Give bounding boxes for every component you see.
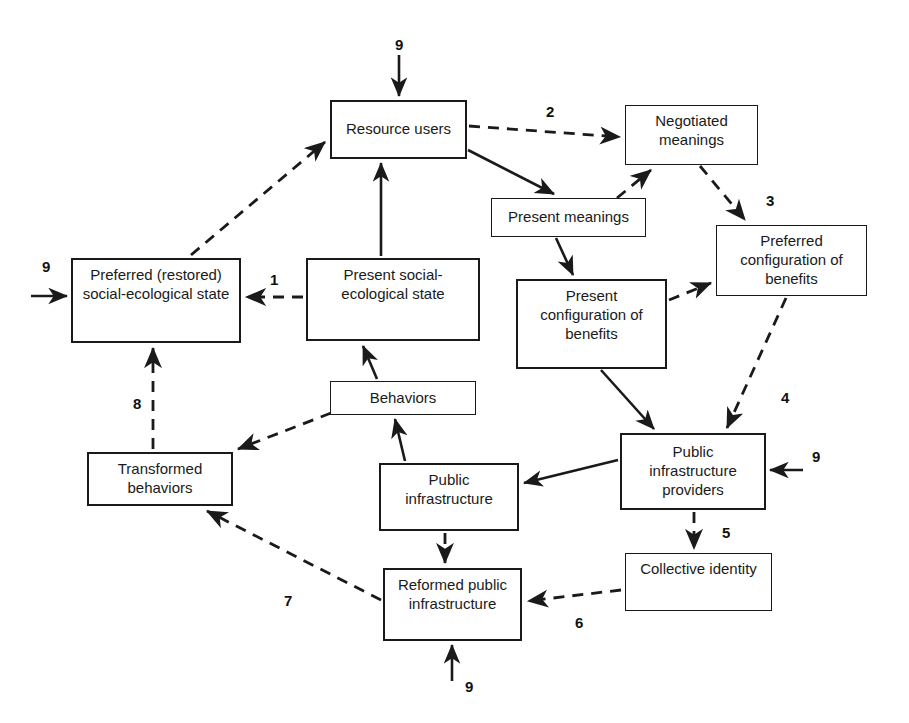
node-label: Present meanings <box>496 208 641 227</box>
edge-label-5: 5 <box>722 524 730 541</box>
node-label: Present configuration of benefits <box>522 287 661 343</box>
node-preferred-restored-state[interactable]: Preferred (restored) social-ecological s… <box>71 258 241 343</box>
node-present-configuration-of-benefits[interactable]: Present configuration of benefits <box>516 279 667 369</box>
edge-label-3: 3 <box>766 192 774 209</box>
node-label: Reformed public infrastructure <box>389 576 516 614</box>
edge-negotiated-meanings-to-preferred-config <box>700 166 745 220</box>
edge-present-meanings-to-present-config <box>556 238 573 275</box>
node-label: Preferred configuration of benefits <box>721 232 862 288</box>
node-preferred-configuration-of-benefits[interactable]: Preferred configuration of benefits <box>716 225 867 296</box>
edge-reformed-to-transformed-behaviors <box>207 511 381 600</box>
edge-public-infrastructure-to-behaviors <box>395 419 405 461</box>
node-label: Present social- ecological state <box>312 266 474 304</box>
edge-present-meanings-to-negotiated-meanings <box>617 170 651 198</box>
edge-label-7: 7 <box>284 592 292 609</box>
node-label: Negotiated meanings <box>630 112 753 150</box>
node-behaviors[interactable]: Behaviors <box>330 381 476 415</box>
edge-label-1: 1 <box>270 271 278 288</box>
node-negotiated-meanings[interactable]: Negotiated meanings <box>625 105 758 165</box>
node-transformed-behaviors[interactable]: Transformed behaviors <box>87 452 233 506</box>
edge-label-2: 2 <box>546 103 554 120</box>
node-present-meanings[interactable]: Present meanings <box>491 198 646 237</box>
edge-label-9-resource-users: 9 <box>395 36 403 53</box>
edge-present-config-to-preferred-config <box>669 283 711 300</box>
node-label: Preferred (restored) social-ecological s… <box>77 266 235 304</box>
node-label: Transformed behaviors <box>93 460 227 498</box>
node-label: Public infrastructure <box>385 471 513 509</box>
node-reformed-public-infrastructure[interactable]: Reformed public infrastructure <box>383 568 522 641</box>
edge-label-8: 8 <box>133 395 141 412</box>
edge-preferred-config-to-providers <box>727 298 786 428</box>
edge-label-6: 6 <box>575 614 583 631</box>
edge-label-9-reformed: 9 <box>465 678 473 695</box>
edge-collective-identity-to-reformed <box>528 590 621 601</box>
edge-behaviors-to-transformed-behaviors <box>238 413 331 449</box>
edge-resource-users-to-present-meanings <box>468 150 554 194</box>
edge-label-9-providers: 9 <box>812 448 820 465</box>
edge-present-config-to-providers <box>601 370 654 429</box>
node-label: Behaviors <box>335 389 471 408</box>
node-label: Resource users <box>336 120 461 139</box>
edge-resource-users-to-negotiated-meanings <box>469 126 620 137</box>
edge-label-9-preferred-state: 9 <box>42 258 50 275</box>
edge-preferred-state-to-resource-users <box>191 142 325 255</box>
diagram-canvas: Resource users Negotiated meanings Prese… <box>0 0 909 723</box>
edge-behaviors-to-present-state <box>363 346 377 379</box>
node-label: Public infrastructure providers <box>626 443 760 499</box>
node-collective-identity[interactable]: Collective identity <box>625 553 772 611</box>
node-public-infrastructure[interactable]: Public infrastructure <box>379 463 519 531</box>
node-label: Collective identity <box>630 560 767 579</box>
edge-label-4: 4 <box>781 389 789 406</box>
node-public-infrastructure-providers[interactable]: Public infrastructure providers <box>620 433 766 510</box>
node-present-social-ecological-state[interactable]: Present social- ecological state <box>306 258 480 341</box>
node-resource-users[interactable]: Resource users <box>330 100 467 159</box>
edge-providers-to-public-infrastructure <box>524 460 618 483</box>
